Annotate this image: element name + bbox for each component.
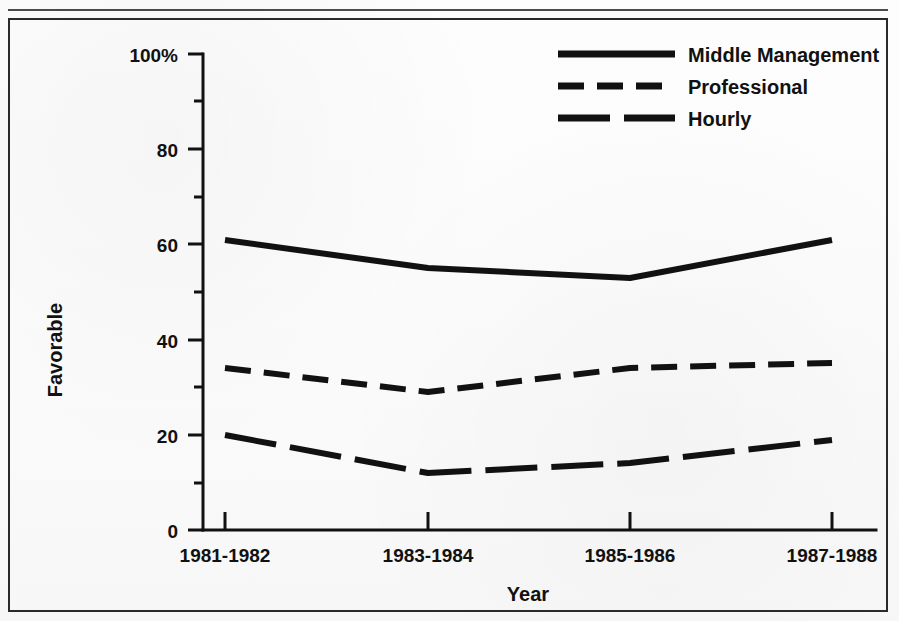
series-line-middle-management [225, 240, 832, 278]
x-tick-label-1983-1984: 1983-1984 [383, 545, 474, 566]
y-tick-label-100: 100% [129, 45, 178, 66]
top-rule-divider [8, 9, 888, 11]
y-axis-title: Favorable [44, 303, 66, 397]
y-tick-label-0: 0 [167, 521, 178, 542]
x-axis: 1981-1982 1983-1984 1985-1986 1987-1988 … [180, 512, 878, 605]
y-tick-label-80: 80 [157, 140, 178, 161]
legend-item-hourly: Hourly [558, 108, 752, 130]
y-tick-label-20: 20 [157, 426, 178, 447]
legend-item-professional: Professional [558, 76, 808, 98]
series-middle-management [225, 240, 832, 278]
chart-legend: Middle Management Professional Hourly [558, 44, 879, 130]
x-tick-label-1985-1986: 1985-1986 [585, 545, 676, 566]
x-tick-label-1981-1982: 1981-1982 [180, 545, 271, 566]
x-axis-title: Year [507, 583, 549, 605]
x-tick-label-1987-1988: 1987-1988 [787, 545, 878, 566]
line-chart: 100% 80 60 40 20 0 Favorable 1981-1982 1… [10, 20, 886, 610]
figure-frame: 100% 80 60 40 20 0 Favorable 1981-1982 1… [8, 18, 888, 612]
series-line-professional [225, 363, 832, 392]
series-professional [225, 363, 832, 392]
legend-label-hourly: Hourly [688, 108, 752, 130]
y-axis: 100% 80 60 40 20 0 Favorable [44, 45, 203, 542]
series-line-hourly [225, 435, 832, 473]
legend-label-professional: Professional [688, 76, 808, 98]
legend-label-middle-management: Middle Management [688, 44, 879, 66]
y-tick-label-40: 40 [157, 331, 178, 352]
y-tick-label-60: 60 [157, 235, 178, 256]
series-hourly [225, 435, 832, 473]
legend-item-middle-management: Middle Management [558, 44, 879, 66]
